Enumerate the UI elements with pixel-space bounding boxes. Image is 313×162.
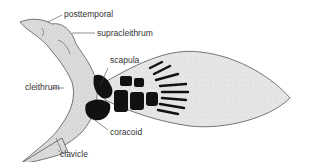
girdle-illustration xyxy=(0,0,313,162)
label-supracleithrum: supracleithrum xyxy=(97,29,153,38)
label-coracoid: coracoid xyxy=(110,128,142,137)
label-scapula: scapula xyxy=(110,56,139,65)
label-posttemporal: posttemporal xyxy=(64,10,113,19)
label-clavicle: clavicle xyxy=(60,150,88,159)
girdle-diagram: posttemporal supracleithrum scapula clei… xyxy=(0,0,313,162)
label-cleithrum: cleithrum xyxy=(25,83,59,92)
